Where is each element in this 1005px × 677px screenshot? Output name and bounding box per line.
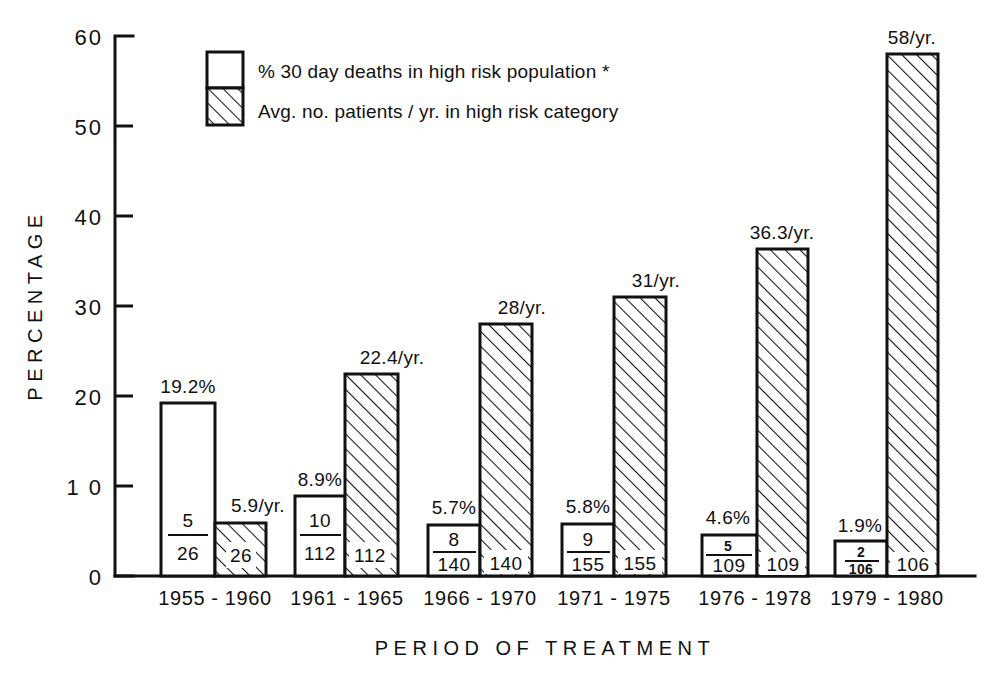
bar-top-label-patients-1966-1970: 28/yr. (498, 297, 546, 318)
y-tick-label-40: 40 (75, 205, 103, 230)
fraction-denominator-1976-1978: 109 (712, 555, 745, 576)
bar-top-label-deaths-1979-1980: 1.9% (838, 515, 883, 536)
bar-top-label-deaths-1955-1960: 19.2% (160, 376, 215, 397)
fraction-numerator-1955-1960: 5 (182, 510, 193, 531)
y-tick-label-0: 0 (89, 565, 103, 590)
y-tick-label-20: 20 (75, 385, 103, 410)
inbar-label-1971-1975: 155 (623, 553, 656, 574)
category-label-1961-1965: 1961 - 1965 (290, 587, 403, 609)
legend-label-patients: Avg. no. patients / yr. in high risk cat… (258, 101, 619, 122)
bar-top-label-deaths-1966-1970: 5.7% (432, 497, 477, 518)
inbar-label-1961-1965: 112 (354, 545, 386, 566)
bar-top-label-deaths-1971-1975: 5.8% (566, 496, 611, 517)
fraction-numerator-1971-1975: 9 (582, 529, 593, 550)
inbar-label-1966-1970: 140 (489, 553, 522, 574)
fraction-denominator-1961-1965: 112 (304, 543, 336, 564)
category-label-1976-1978: 1976 - 1978 (698, 587, 811, 609)
fraction-denominator-1966-1970: 140 (437, 554, 470, 575)
fraction-denominator-1971-1975: 155 (571, 554, 604, 575)
inbar-label-1979-1980: 106 (896, 554, 929, 575)
category-label-1966-1970: 1966 - 1970 (423, 587, 536, 609)
category-label-1979-1980: 1979 - 1980 (830, 587, 943, 609)
x-axis-title: PERIOD OF TREATMENT (375, 637, 715, 659)
y-tick-label-30: 30 (75, 295, 103, 320)
y-axis-title: PERCENTAGE (24, 209, 46, 400)
legend-swatch-hatched (207, 88, 243, 125)
fraction-numerator-1979-1980: 2 (857, 544, 865, 560)
y-tick-label-50: 50 (75, 115, 103, 140)
bar-group-1955-1960: 19.2% 5 26 5.9/yr. 26 1955 - 1960 (158, 376, 285, 609)
inbar-label-1955-1960: 26 (230, 545, 252, 566)
fraction-numerator-1966-1970: 8 (448, 529, 459, 550)
bar-group-1966-1970: 5.7% 8 140 28/yr. 140 1966 - 1970 (423, 297, 546, 609)
bar-group-1979-1980: 1.9% 2 106 58/yr. 106 1979 - 1980 (830, 27, 943, 609)
bar-group-1961-1965: 8.9% 10 112 22.4/yr. 112 1961 - 1965 (290, 347, 424, 609)
bar-top-label-patients-1961-1965: 22.4/yr. (360, 347, 425, 368)
bar-top-label-patients-1976-1978: 36.3/yr. (750, 222, 815, 243)
bar-chart: 60 50 40 30 20 1 0 0 PERCENTAGE PERIOD O… (0, 0, 1005, 677)
category-label-1955-1960: 1955 - 1960 (158, 587, 271, 609)
bar-patients-1966-1970[interactable] (480, 324, 532, 576)
bar-patients-1971-1975[interactable] (614, 297, 666, 576)
bar-group-1971-1975: 5.8% 9 155 31/yr. 155 1971 - 1975 (557, 270, 680, 609)
bar-group-1976-1978: 4.6% 5 109 36.3/yr. 109 1976 - 1978 (698, 222, 814, 609)
legend-swatch-white (207, 52, 243, 88)
bar-top-label-patients-1979-1980: 58/yr. (888, 27, 936, 48)
bar-top-label-patients-1971-1975: 31/yr. (632, 270, 680, 291)
bar-top-label-deaths-1961-1965: 8.9% (298, 469, 343, 490)
bar-patients-1979-1980[interactable] (887, 54, 938, 576)
fraction-numerator-1976-1978: 5 (724, 538, 732, 554)
bar-patients-1976-1978[interactable] (757, 249, 808, 576)
fraction-denominator-1955-1960: 26 (177, 543, 199, 564)
fraction-numerator-1961-1965: 10 (309, 510, 331, 531)
inbar-label-1976-1978: 109 (766, 554, 799, 575)
category-label-1971-1975: 1971 - 1975 (557, 587, 670, 609)
y-tick-label-10: 1 0 (66, 475, 103, 500)
y-axis: 60 50 40 30 20 1 0 0 PERCENTAGE (24, 25, 133, 590)
bar-top-label-patients-1955-1960: 5.9/yr. (231, 495, 285, 516)
fraction-denominator-1979-1980: 106 (849, 561, 874, 577)
y-tick-label-60: 60 (75, 25, 103, 50)
chart-container: 60 50 40 30 20 1 0 0 PERCENTAGE PERIOD O… (0, 0, 1005, 677)
legend-label-deaths: % 30 day deaths in high risk population … (258, 61, 610, 82)
legend: % 30 day deaths in high risk population … (207, 52, 619, 125)
bar-top-label-deaths-1976-1978: 4.6% (706, 507, 751, 528)
